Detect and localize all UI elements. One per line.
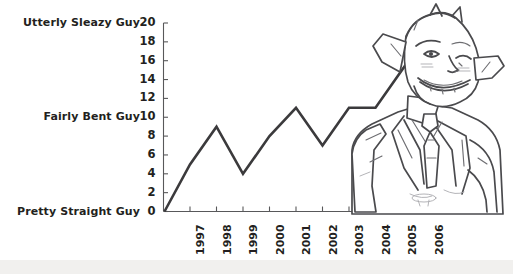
sleazy-businessman-caricature xyxy=(0,0,513,274)
chart-canvas: 02468101214161820 Utterly Sleazy GuyFair… xyxy=(0,0,513,274)
footer-strip xyxy=(0,260,513,274)
